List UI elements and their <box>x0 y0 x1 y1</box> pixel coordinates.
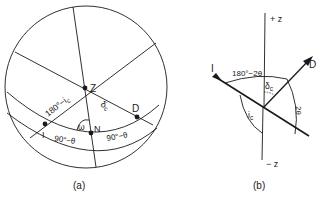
label-plus-z: + z <box>270 14 283 24</box>
caption-a: (a) <box>73 180 85 191</box>
axis-plus-z <box>264 13 265 107</box>
label-d-ray: D <box>309 59 316 70</box>
point-z <box>83 86 88 91</box>
label-ic-b: ic <box>248 110 254 121</box>
label-180-2theta: 180°−2θ <box>232 69 263 78</box>
label-arc-iz: 180°−ic <box>43 93 72 119</box>
axis-minus-z <box>262 107 263 160</box>
point-i <box>43 122 48 127</box>
panel-a-labels: Z D N I 180°−ic δc ω 90°−θ 90°−θ (a) <box>42 83 139 191</box>
point-d <box>135 115 140 120</box>
caption-b: (b) <box>253 180 265 191</box>
panel-b-arrows <box>212 56 313 81</box>
label-2theta: 2θ <box>294 106 303 115</box>
label-i: I <box>42 130 45 140</box>
label-delta-c: δc <box>99 99 112 113</box>
arrow-incident-icon <box>212 73 222 81</box>
label-arc-nd: 90°−θ <box>106 130 129 143</box>
label-arc-in: 90°−θ <box>54 134 77 146</box>
label-i-ray: I <box>211 63 214 74</box>
label-minus-z: − z <box>266 159 279 169</box>
arc-delta <box>264 92 274 95</box>
label-z: Z <box>90 83 96 94</box>
label-omega: ω <box>78 122 85 132</box>
label-n: N <box>94 124 101 134</box>
ray-diffracted <box>264 59 310 107</box>
point-n <box>89 131 94 136</box>
label-d: D <box>132 103 139 114</box>
label-delta-c-b: δc <box>265 81 274 92</box>
panel-b <box>214 13 310 160</box>
diagram-canvas: Z D N I 180°−ic δc ω 90°−θ 90°−θ (a) <box>0 0 321 199</box>
